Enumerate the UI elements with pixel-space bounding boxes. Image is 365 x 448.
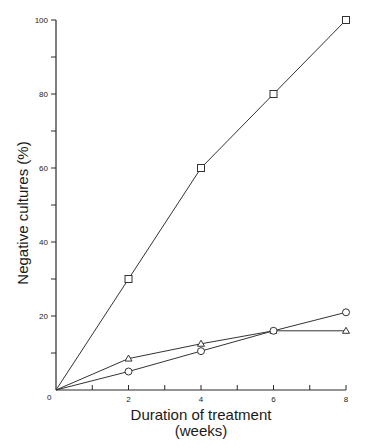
square-marker [343, 17, 350, 24]
y-tick-label: 80 [39, 90, 48, 99]
series-square [56, 17, 350, 391]
y-ticks: 20406080100 [35, 16, 56, 353]
data-series [56, 17, 350, 391]
y-tick-label: 100 [35, 16, 49, 25]
circle-marker [125, 368, 132, 375]
series-triangle [56, 327, 350, 390]
x-axis-subtitle: (weeks) [175, 422, 228, 439]
y-axis-title: Negative cultures (%) [14, 141, 31, 284]
axes [56, 20, 346, 390]
series-line [56, 20, 346, 390]
x-tick-label: 6 [271, 395, 276, 404]
circle-marker [270, 327, 277, 334]
series-circle [56, 309, 350, 390]
x-tick-label: 8 [344, 395, 349, 404]
x-tick-label: 2 [126, 395, 131, 404]
square-marker [125, 276, 132, 283]
y-tick-label: 60 [39, 164, 48, 173]
line-chart: 20406080100 2468 0 Negative cultures (%)… [0, 0, 365, 448]
y-tick-label: 40 [39, 238, 48, 247]
x-ticks: 2468 [92, 385, 349, 404]
circle-marker [198, 348, 205, 355]
origin-label: 0 [47, 393, 52, 402]
circle-marker [343, 309, 350, 316]
square-marker [270, 91, 277, 98]
x-tick-label: 4 [199, 395, 204, 404]
y-tick-label: 20 [39, 312, 48, 321]
square-marker [198, 165, 205, 172]
x-axis-title: Duration of treatment [131, 406, 273, 423]
